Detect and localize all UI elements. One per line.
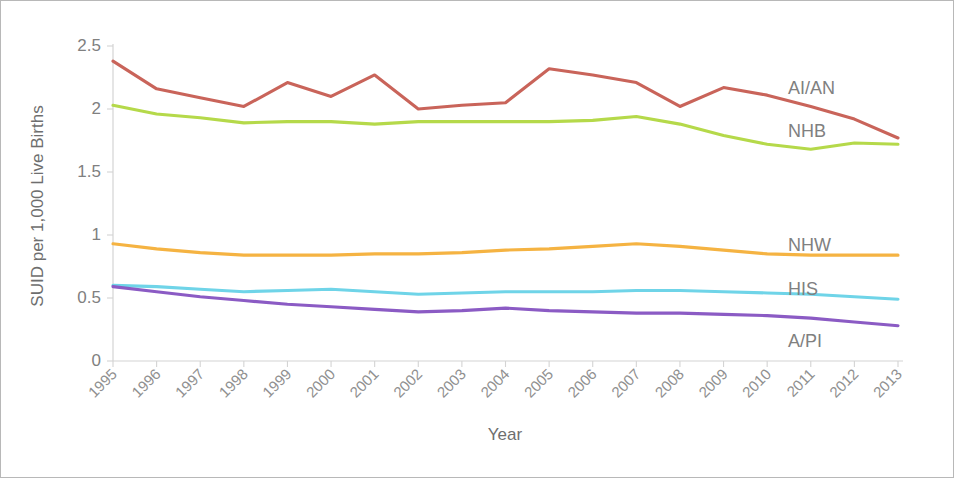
x-tick-label: 2003 [433, 365, 469, 401]
x-axis: 1995199619971998199920002001200220032004… [85, 361, 906, 401]
series-line-nhw [113, 244, 898, 255]
series-label-ai-an: AI/AN [788, 78, 835, 98]
suid-rate-line-chart: 00.511.522.5 199519961997199819992000200… [1, 1, 954, 478]
series-line-nhb [113, 105, 898, 149]
x-tick-label: 2005 [521, 365, 557, 401]
series-line-ai-an [113, 61, 898, 138]
x-axis-title: Year [488, 425, 523, 444]
x-tick-label: 2011 [783, 365, 818, 400]
y-tick-label: 2 [92, 99, 101, 118]
series-label-a-pi: A/PI [788, 331, 822, 351]
x-tick-label: 2006 [564, 365, 600, 401]
series-label-nhb: NHB [788, 121, 826, 141]
x-tick-label: 2004 [477, 365, 513, 401]
x-tick-label: 2008 [651, 365, 687, 401]
y-tick-label: 1.5 [77, 162, 101, 181]
x-tick-label: 1996 [128, 365, 164, 401]
x-tick-label: 2010 [739, 365, 775, 401]
y-tick-label: 0 [92, 351, 101, 370]
y-tick-label: 2.5 [77, 36, 101, 55]
series-line-his [113, 285, 898, 299]
x-tick-label: 2001 [346, 365, 382, 401]
series-lines [113, 61, 898, 326]
x-tick-label: 1999 [259, 365, 295, 401]
chart-canvas: 00.511.522.5 199519961997199819992000200… [1, 1, 954, 478]
y-tick-label: 0.5 [77, 288, 101, 307]
y-axis-title: SUID per 1,000 Live Births [28, 105, 47, 306]
x-tick-label: 2007 [608, 365, 644, 401]
x-tick-label: 1997 [172, 365, 208, 401]
x-tick-label: 1995 [85, 365, 121, 401]
series-label-his: HIS [788, 279, 818, 299]
x-tick-label: 2013 [870, 365, 906, 401]
x-tick-label: 1998 [215, 365, 251, 401]
x-tick-label: 2012 [826, 365, 862, 401]
x-tick-label: 2000 [303, 365, 339, 401]
y-tick-label: 1 [92, 225, 101, 244]
series-label-nhw: NHW [788, 235, 831, 255]
x-tick-label: 2002 [390, 365, 426, 401]
series-labels: AI/ANNHBNHWHISA/PI [788, 78, 835, 351]
chart-page: 00.511.522.5 199519961997199819992000200… [0, 0, 954, 478]
y-axis: 00.511.522.5 [77, 36, 113, 370]
x-tick-label: 2009 [695, 365, 731, 401]
